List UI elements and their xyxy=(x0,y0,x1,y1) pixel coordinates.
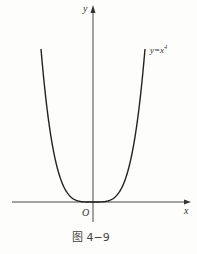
figure-caption: 图 4−9 xyxy=(72,228,110,244)
y-axis-arrow-icon xyxy=(91,5,96,13)
curve-label-exponent: 4 xyxy=(164,44,167,50)
curve-label: y=x4 xyxy=(150,44,167,55)
chart-canvas xyxy=(0,0,197,254)
origin-label: O xyxy=(82,207,89,218)
x-axis-arrow-icon xyxy=(184,200,191,205)
curve-label-base: y=x xyxy=(150,45,164,55)
x-axis-label: x xyxy=(184,205,188,216)
y-axis-label: y xyxy=(83,3,87,14)
